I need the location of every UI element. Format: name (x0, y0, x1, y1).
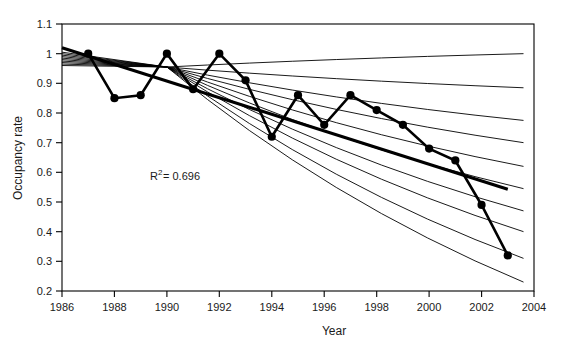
x-tick-label-2002: 2002 (469, 301, 493, 313)
y-axis-labels: 0.2 0.3 0.4 0.5 0.6 0.7 0.8 0.9 1 1.1 (37, 18, 52, 297)
x-axis-ticks (62, 291, 534, 297)
r-squared-annotation: R 2 = 0.696 (150, 168, 200, 182)
y-tick-label-0.9: 0.9 (37, 77, 52, 89)
projection-fan-curves (62, 52, 524, 282)
projection-curve (62, 61, 524, 211)
data-point-marker (399, 121, 407, 129)
y-tick-label-0.4: 0.4 (37, 226, 52, 238)
x-tick-label-1996: 1996 (312, 301, 336, 313)
x-tick-label-2004: 2004 (522, 301, 546, 313)
y-tick-label-0.5: 0.5 (37, 196, 52, 208)
data-point-marker (373, 106, 381, 114)
data-point-marker (189, 85, 197, 93)
x-tick-label-1998: 1998 (364, 301, 388, 313)
y-tick-label-0.2: 0.2 (37, 285, 52, 297)
x-tick-label-1990: 1990 (155, 301, 179, 313)
y-tick-label-1.1: 1.1 (37, 18, 52, 30)
x-tick-label-2000: 2000 (417, 301, 441, 313)
data-point-marker (320, 121, 328, 129)
x-tick-label-1986: 1986 (50, 301, 74, 313)
data-point-marker (294, 91, 302, 99)
linear-trend-line (62, 48, 508, 190)
y-tick-label-0.3: 0.3 (37, 255, 52, 267)
x-tick-label-1992: 1992 (207, 301, 231, 313)
y-tick-label-1: 1 (46, 48, 52, 60)
r-squared-value: = 0.696 (163, 170, 200, 182)
data-point-marker (268, 133, 276, 141)
chart-container: 0.2 0.3 0.4 0.5 0.6 0.7 0.8 0.9 1 1.1 (0, 0, 573, 349)
occupancy-rate-chart: 0.2 0.3 0.4 0.5 0.6 0.7 0.8 0.9 1 1.1 (0, 0, 573, 349)
data-point-marker (110, 94, 118, 102)
data-point-marker (163, 50, 171, 58)
data-point-marker (504, 251, 512, 259)
x-axis-labels: 1986 1988 1990 1992 1994 1996 1998 2000 … (50, 301, 546, 313)
data-point-marker (346, 91, 354, 99)
y-tick-label-0.8: 0.8 (37, 107, 52, 119)
data-point-marker (241, 76, 249, 84)
r-squared-base: R (150, 170, 158, 182)
x-tick-label-1994: 1994 (260, 301, 284, 313)
projection-curve (62, 63, 524, 232)
trend-line-segment (62, 48, 508, 190)
y-tick-label-0.6: 0.6 (37, 166, 52, 178)
y-axis-title: Occupancy rate (11, 116, 25, 200)
data-point-marker (425, 145, 433, 153)
data-point-marker (137, 91, 145, 99)
data-point-marker (451, 156, 459, 164)
projection-curve (62, 60, 524, 189)
data-point-marker (215, 50, 223, 58)
x-axis-title: Year (322, 324, 346, 338)
data-point-marker (84, 50, 92, 58)
y-axis-ticks (56, 24, 62, 291)
x-tick-label-1988: 1988 (102, 301, 126, 313)
data-point-marker (477, 201, 485, 209)
y-tick-label-0.7: 0.7 (37, 137, 52, 149)
